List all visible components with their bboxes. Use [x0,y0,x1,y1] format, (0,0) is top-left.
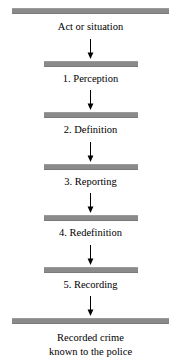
stage-bar-redefinition [44,215,138,221]
final-label-line-1: Recorded crime [49,331,132,345]
stage-label-act-or-situation: Act or situation [58,21,123,34]
stage-bar-definition [44,112,138,118]
stage-label-recording: 5. Recording [63,279,117,292]
final-label-line-2: known to the police [49,345,132,358]
arrow-down-icon-3 [85,142,96,162]
arrow-down-icon-6 [85,296,96,316]
stage-bar-recording [44,267,138,273]
stage-label-perception: 1. Perception [63,73,118,86]
stage-bar-act-or-situation [12,8,169,14]
arrow-down-icon-5 [85,245,96,265]
stage-label-recorded-crime: Recorded crime known to the police [49,331,132,358]
stage-label-definition: 2. Definition [64,124,118,137]
stage-bar-recorded-crime [12,318,169,324]
stage-bar-perception [44,61,138,67]
stage-label-redefinition: 4. Redefinition [59,227,122,240]
stage-bar-reporting [44,164,138,170]
arrow-down-icon-2 [85,90,96,110]
arrow-down-icon-4 [85,193,96,213]
stage-label-reporting: 3. Reporting [64,176,117,189]
arrow-down-icon-1 [85,39,96,59]
